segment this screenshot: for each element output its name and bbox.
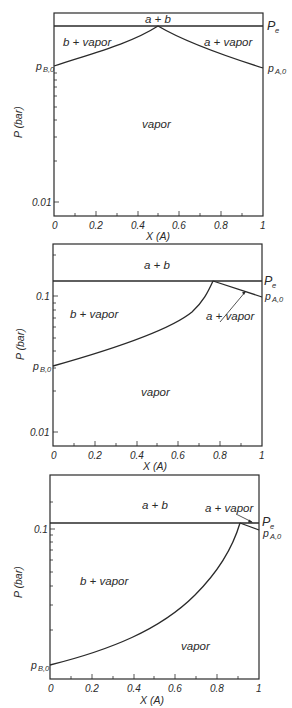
x-ticks	[71, 674, 238, 679]
svg-text:0.6: 0.6	[168, 683, 182, 694]
svg-text:0.6: 0.6	[171, 450, 185, 461]
svg-text:0.4: 0.4	[131, 220, 145, 231]
x-axis-label: X (A)	[142, 460, 167, 472]
panel-3: 0.1 0 0.2 0.4 0.6 0.8 1 X (A) P (bar) a …	[12, 475, 282, 706]
svg-text:0.8: 0.8	[210, 683, 224, 694]
region-a-plus-b: a + b	[144, 259, 171, 271]
pb0-label: p B,0	[30, 659, 50, 673]
svg-text:A,0: A,0	[271, 295, 284, 304]
y-axis-label: P (bar)	[12, 106, 24, 138]
region-a-plus-vapor: a + vapor	[206, 310, 255, 322]
svg-text:p: p	[262, 527, 269, 539]
x-axis-label: X (A)	[145, 230, 170, 242]
svg-text:e: e	[272, 281, 276, 290]
panel-1: 0.01 0 0.2 0.4 0.6 0.8 1 X (A) P (bar) a…	[12, 13, 287, 242]
y-ticks	[54, 73, 59, 202]
pe-label: P e	[267, 19, 279, 35]
region-b-plus-vapor: b + vapor	[80, 575, 129, 587]
x-ticks	[75, 211, 242, 216]
a-vapor-curve	[213, 281, 262, 297]
svg-text:0.2: 0.2	[85, 683, 99, 694]
svg-text:A,0: A,0	[274, 67, 287, 76]
svg-text:p: p	[30, 659, 37, 671]
pb0-label: p B,0	[32, 360, 52, 374]
y-tick-label-0.1: 0.1	[34, 524, 48, 535]
region-a-plus-b: a + b	[142, 499, 169, 511]
pa0-label: p A,0	[264, 290, 284, 304]
region-a-plus-b: a + b	[145, 13, 172, 25]
svg-text:A,0: A,0	[269, 532, 282, 541]
x-ticks	[74, 441, 241, 446]
y-axis-label: P (bar)	[14, 328, 26, 360]
region-vapor: vapor	[141, 386, 171, 398]
region-vapor: vapor	[142, 118, 172, 130]
plot-frame	[53, 244, 262, 446]
pe-label: P e	[264, 274, 276, 290]
phase-diagrams: 0.01 0 0.2 0.4 0.6 0.8 1 X (A) P (bar) a…	[0, 0, 292, 708]
svg-text:0: 0	[51, 450, 57, 461]
svg-text:p: p	[267, 62, 274, 74]
svg-text:p: p	[35, 60, 42, 72]
svg-text:0.4: 0.4	[127, 683, 141, 694]
svg-text:e: e	[270, 522, 274, 531]
pb0-label: p B,0	[35, 60, 55, 74]
region-b-plus-vapor: b + vapor	[63, 36, 112, 48]
region-a-plus-vapor: a + vapor	[205, 502, 254, 514]
svg-text:1: 1	[256, 683, 262, 694]
svg-text:e: e	[275, 26, 279, 35]
svg-text:p: p	[264, 290, 271, 302]
region-a-plus-vapor: a + vapor	[204, 36, 253, 48]
a-vapor-curve	[240, 523, 259, 530]
svg-text:0.2: 0.2	[88, 450, 102, 461]
svg-text:p: p	[32, 360, 39, 372]
y-tick-label-0.01: 0.01	[30, 427, 49, 438]
b-vapor-curve	[53, 281, 213, 366]
svg-text:0: 0	[52, 220, 58, 231]
region-vapor: vapor	[181, 640, 211, 652]
svg-text:0.8: 0.8	[214, 220, 228, 231]
x-axis-label: X (A)	[139, 694, 164, 706]
svg-text:0: 0	[48, 683, 54, 694]
y-tick-label-0.1: 0.1	[36, 291, 50, 302]
pa0-label: p A,0	[267, 62, 287, 76]
svg-text:1: 1	[260, 220, 266, 231]
region-b-plus-vapor: b + vapor	[70, 308, 119, 320]
svg-text:0.6: 0.6	[172, 220, 186, 231]
svg-text:1: 1	[259, 450, 265, 461]
b-vapor-curve	[50, 523, 240, 665]
panel-2: 0.1 0.01 0 0.2 0.4 0.6 0.8 1 X (A) P (ba…	[14, 244, 284, 472]
svg-text:B,0: B,0	[40, 365, 52, 374]
svg-text:B,0: B,0	[43, 65, 55, 74]
svg-text:B,0: B,0	[38, 664, 50, 673]
svg-text:0.8: 0.8	[213, 450, 227, 461]
svg-text:0.2: 0.2	[89, 220, 103, 231]
y-ticks	[50, 502, 55, 630]
y-axis-label: P (bar)	[12, 566, 24, 598]
x-tick-labels: 0 0.2 0.4 0.6 0.8 1	[48, 683, 262, 694]
y-tick-label-0.01: 0.01	[32, 197, 51, 208]
